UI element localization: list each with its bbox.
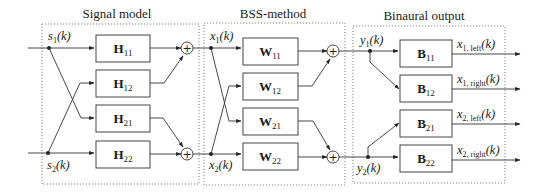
block-h11: H11 (96, 35, 150, 62)
h12-to-sum1-line (150, 56, 183, 83)
block-h12: H12 (96, 70, 150, 97)
sum-node-x2: + (181, 148, 193, 161)
x1-right-label: x1, right(k) (456, 72, 500, 88)
y1-label: y1(k) (358, 33, 383, 49)
block-b11: B11 (400, 40, 452, 67)
block-w21: W21 (243, 108, 298, 135)
x1-to-w21-line (211, 48, 241, 121)
block-h21: H21 (96, 105, 150, 132)
x2-label: x2(k) (208, 158, 232, 174)
block-w22: W22 (243, 143, 298, 170)
x2-left-label: x2, left(k) (456, 107, 495, 123)
x2-to-w12-line (211, 86, 241, 154)
s1-label: s1(k) (48, 29, 71, 45)
sum-node-y2: + (327, 151, 339, 164)
block-b21: B21 (400, 110, 452, 137)
y2-label: y2(k) (355, 161, 380, 177)
svg-text:+: + (328, 151, 337, 164)
svg-text:+: + (328, 45, 337, 58)
h21-to-sum2-line (150, 118, 183, 147)
block-w12: W12 (243, 73, 298, 100)
w12-to-sum-y1-line (298, 59, 330, 86)
bss-binaural-block-diagram: Signal model BSS-method Binaural output … (0, 0, 539, 192)
sum-node-x1: + (181, 42, 193, 55)
x2-right-label: x2, right(k) (456, 143, 500, 159)
block-w11: W11 (243, 38, 298, 65)
svg-text:+: + (182, 148, 191, 161)
block-b22: B22 (400, 145, 452, 172)
sum-node-y1: + (327, 45, 339, 58)
svg-text:+: + (182, 42, 191, 55)
binaural-output-title: Binaural output (383, 8, 465, 23)
bss-method-title: BSS-method (240, 6, 307, 21)
signal-model-title: Signal model (83, 6, 152, 21)
s2-label: s2(k) (47, 158, 70, 174)
w21-to-sum-y2-line (298, 121, 330, 150)
block-b12: B12 (400, 75, 452, 102)
x1-left-label: x1, left(k) (456, 37, 495, 53)
x1-label: x1(k) (209, 29, 233, 45)
block-h22: H22 (96, 141, 150, 168)
y1-to-b12-line (370, 51, 399, 89)
y2-to-b21-line (368, 123, 399, 157)
